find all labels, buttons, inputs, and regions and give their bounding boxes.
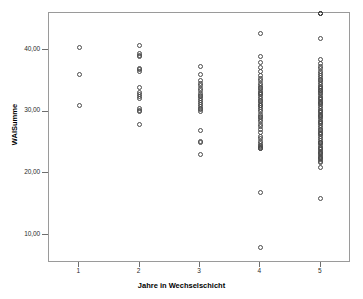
data-point <box>77 103 82 108</box>
data-point <box>258 31 263 36</box>
data-point <box>137 69 142 74</box>
data-point <box>318 88 323 93</box>
data-point <box>258 54 263 59</box>
data-point <box>137 122 142 127</box>
data-point <box>77 72 82 77</box>
data-point <box>137 85 142 90</box>
data-point <box>137 43 142 48</box>
data-point <box>198 109 203 114</box>
plot-area <box>48 12 350 262</box>
x-axis-title: Jahre in Wechselschicht <box>0 281 363 290</box>
x-axis-tick-label: 1 <box>66 268 90 275</box>
y-axis-tick-label: 30,00 <box>0 107 40 114</box>
data-point <box>198 72 203 77</box>
y-axis-tick-label-group: 10,0020,0030,0040,00 <box>0 0 40 299</box>
data-point <box>258 245 263 250</box>
y-axis-tick <box>42 49 48 50</box>
y-axis-tick-label: 20,00 <box>0 169 40 176</box>
data-point <box>258 91 263 96</box>
data-point <box>77 45 82 50</box>
y-axis-tick <box>42 234 48 235</box>
data-point <box>318 11 323 16</box>
data-point <box>258 103 263 108</box>
x-axis-tick-label: 5 <box>308 268 332 275</box>
data-point <box>318 196 323 201</box>
x-axis-tick-label: 3 <box>187 268 211 275</box>
y-axis-tick <box>42 172 48 173</box>
data-points-layer <box>49 13 349 261</box>
data-point <box>258 190 263 195</box>
data-point <box>137 96 142 101</box>
x-axis-tick-label: 2 <box>127 268 151 275</box>
data-point <box>198 152 203 157</box>
y-axis-tick-label: 10,00 <box>0 231 40 238</box>
data-point <box>318 36 323 41</box>
data-point <box>137 54 142 59</box>
scatter-plot-figure: 10,0020,0030,0040,00 WAISumme Jahre in W… <box>0 0 363 299</box>
y-axis-title: WAISumme <box>10 90 19 160</box>
y-axis-tick-label: 40,00 <box>0 46 40 53</box>
data-point <box>198 64 203 69</box>
x-axis-tick-label: 4 <box>247 268 271 275</box>
data-point <box>198 140 203 145</box>
data-point <box>318 165 323 170</box>
data-point <box>137 109 142 114</box>
data-point <box>198 128 203 133</box>
data-point <box>258 146 263 151</box>
y-axis-tick <box>42 111 48 112</box>
